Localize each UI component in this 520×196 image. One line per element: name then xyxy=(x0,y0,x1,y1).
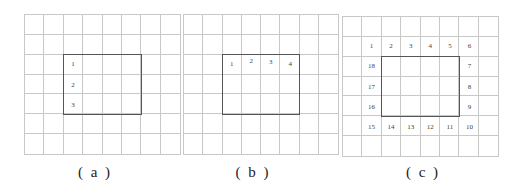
grid-cell xyxy=(440,17,459,37)
grid-cell xyxy=(280,114,299,134)
grid-cell xyxy=(83,75,102,95)
grid-cell xyxy=(440,136,459,156)
grid-cell xyxy=(44,94,63,114)
cell-number-label: 5 xyxy=(448,42,452,50)
grid-cell xyxy=(459,17,478,37)
grid-cell xyxy=(261,35,280,55)
grid-cell xyxy=(25,75,44,95)
cell-number-label: 3 xyxy=(269,58,273,66)
cell-number-label: 2 xyxy=(250,57,254,65)
grid-cell xyxy=(44,15,63,35)
cell-number-label: 2 xyxy=(71,81,75,89)
grid-cell xyxy=(223,75,242,95)
grid-cell xyxy=(479,96,498,116)
cell-number-label: 4 xyxy=(289,60,293,68)
grid-cell xyxy=(280,94,299,114)
grid-cell xyxy=(44,114,63,134)
cell-number-label: 1 xyxy=(230,60,234,68)
cell-number-label: 4 xyxy=(429,42,433,50)
grid-cell xyxy=(83,114,102,134)
cell-number-label: 3 xyxy=(71,101,75,109)
grid-panel-a xyxy=(24,14,181,155)
grid-cell xyxy=(103,114,122,134)
grid-cell xyxy=(362,17,381,37)
cell-number-label: 12 xyxy=(427,123,434,131)
cell-number-label: 14 xyxy=(388,123,395,131)
grid-cell xyxy=(401,17,420,37)
grid-cell xyxy=(242,35,261,55)
grid-cell xyxy=(300,15,319,35)
cell-number-label: 3 xyxy=(409,42,413,50)
grid-cell xyxy=(319,15,338,35)
grid-cell xyxy=(203,114,222,134)
grid-cell xyxy=(479,77,498,97)
grid-cell xyxy=(421,57,440,77)
grid-cell xyxy=(184,75,203,95)
grid-cell xyxy=(362,136,381,156)
grid-cell xyxy=(122,75,141,95)
grid-cell xyxy=(401,57,420,77)
grid-cell xyxy=(141,114,160,134)
grid-cell xyxy=(64,15,83,35)
grid-cell xyxy=(223,134,242,154)
grid-cell xyxy=(122,114,141,134)
cell-number-label: 1 xyxy=(370,42,374,50)
grid-cell xyxy=(83,94,102,114)
cell-number-label: 1 xyxy=(71,60,75,68)
cell-number-label: 7 xyxy=(468,62,472,70)
grid-cell xyxy=(25,134,44,154)
grid-cell xyxy=(280,134,299,154)
grid-cell xyxy=(25,35,44,55)
grid-cell xyxy=(203,35,222,55)
grid-cell xyxy=(280,75,299,95)
grid-cell xyxy=(319,114,338,134)
grid-cell xyxy=(319,134,338,154)
grid-cell xyxy=(141,94,160,114)
cell-number-label: 18 xyxy=(368,62,375,70)
grid-cell xyxy=(300,114,319,134)
grid-cell xyxy=(141,55,160,75)
grid-cell xyxy=(343,96,362,116)
grid-cell xyxy=(103,15,122,35)
grid-cell xyxy=(479,17,498,37)
grid-cell xyxy=(203,55,222,75)
grid-cell xyxy=(242,114,261,134)
grid-cell xyxy=(319,55,338,75)
grid-cell xyxy=(421,17,440,37)
grid-cell xyxy=(184,94,203,114)
grid-cell xyxy=(25,55,44,75)
grid-cell xyxy=(242,15,261,35)
grid-cell xyxy=(25,114,44,134)
grid-cell xyxy=(440,77,459,97)
grid-cell xyxy=(382,57,401,77)
grid-cell xyxy=(300,55,319,75)
grid-cell xyxy=(479,116,498,136)
grid-cell xyxy=(103,94,122,114)
grid-cell xyxy=(161,114,180,134)
grid-cell xyxy=(83,55,102,75)
grid-cell xyxy=(223,94,242,114)
grid-cell xyxy=(300,35,319,55)
grid-cell xyxy=(242,75,261,95)
grid-cell xyxy=(122,35,141,55)
grid-cell xyxy=(382,77,401,97)
grid-cell xyxy=(141,134,160,154)
grid-cell xyxy=(479,37,498,57)
grid-cell xyxy=(184,35,203,55)
grid-cell xyxy=(223,114,242,134)
grid-cell xyxy=(261,134,280,154)
grid-cell xyxy=(141,35,160,55)
grid-cell xyxy=(382,17,401,37)
grid-cell xyxy=(343,136,362,156)
grid-cell xyxy=(122,94,141,114)
grid-cell xyxy=(161,94,180,114)
grid-cell xyxy=(479,57,498,77)
grid-cell xyxy=(141,75,160,95)
cell-number-label: 8 xyxy=(468,83,472,91)
grid-cell xyxy=(122,134,141,154)
grid-cell xyxy=(343,116,362,136)
grid-cell xyxy=(103,55,122,75)
grid-cell xyxy=(83,35,102,55)
grid-cell xyxy=(319,94,338,114)
grid-cell xyxy=(64,114,83,134)
